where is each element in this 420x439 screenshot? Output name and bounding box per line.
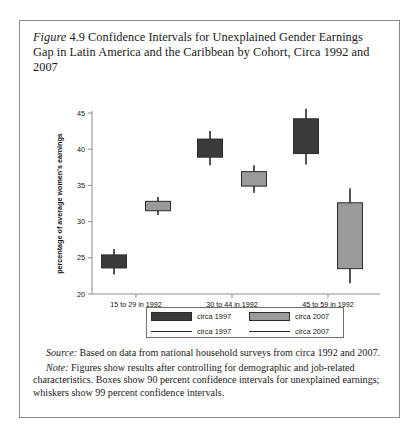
boxplot-series-group bbox=[102, 109, 363, 283]
source-note: Source: Based on data from national hous… bbox=[33, 347, 389, 360]
figure-frame: Figure 4.9 Confidence Intervals for Unex… bbox=[19, 20, 400, 418]
y-tick-label: 35 bbox=[77, 181, 85, 190]
y-axis-title: percentage of average women's earnings bbox=[55, 133, 64, 274]
figure-notes: Source: Based on data from national hous… bbox=[33, 347, 389, 399]
boxplot-svg: 202530354045percentage of average women'… bbox=[20, 76, 401, 316]
note-label: Note: bbox=[46, 362, 68, 373]
legend-item-line-2007: circa 2007 bbox=[245, 324, 343, 338]
boxplot-item bbox=[294, 109, 319, 165]
boxplot-item bbox=[198, 131, 223, 165]
boxplot-item bbox=[242, 165, 267, 193]
chart-plot-area: 202530354045percentage of average women'… bbox=[20, 76, 401, 316]
y-tick-label: 20 bbox=[77, 290, 85, 299]
boxplot-item bbox=[102, 249, 127, 274]
legend-swatch-box-1997-icon bbox=[151, 312, 192, 321]
y-tick-label: 30 bbox=[77, 217, 85, 226]
legend-swatch-box-2007-icon bbox=[249, 312, 290, 321]
legend-swatch-line-2007-icon bbox=[249, 331, 290, 332]
legend-label-box-1997: circa 1997 bbox=[197, 312, 231, 321]
source-text: Based on data from national household su… bbox=[77, 347, 380, 358]
legend-row-boxes: circa 1997 circa 2007 bbox=[147, 309, 343, 323]
y-tick-label: 25 bbox=[77, 253, 85, 262]
boxplot-item bbox=[146, 197, 171, 215]
note-text: Figures show results after controlling f… bbox=[33, 362, 379, 398]
legend-item-line-1997: circa 1997 bbox=[147, 324, 245, 338]
figure-number: 4.9 bbox=[69, 30, 85, 44]
legend-label-line-1997: circa 1997 bbox=[197, 327, 231, 336]
legend-row-lines: circa 1997 circa 2007 bbox=[147, 324, 343, 338]
legend-label-line-2007: circa 2007 bbox=[295, 327, 329, 336]
figure-label: Figure bbox=[33, 30, 66, 44]
legend-swatch-line-1997-icon bbox=[151, 331, 192, 332]
legend-label-box-2007: circa 2007 bbox=[295, 312, 329, 321]
figure-caption: Figure 4.9 Confidence Intervals for Unex… bbox=[33, 30, 383, 76]
chart-legend: circa 1997 circa 2007 circa 1997 circa 2… bbox=[146, 307, 344, 338]
legend-item-box-2007: circa 2007 bbox=[245, 309, 343, 323]
boxplot-item bbox=[338, 188, 363, 283]
y-tick-label: 40 bbox=[77, 145, 85, 154]
y-tick-label: 45 bbox=[77, 109, 85, 118]
source-label: Source: bbox=[46, 347, 77, 358]
explanatory-note: Note: Figures show results after control… bbox=[33, 362, 389, 400]
legend-item-box-1997: circa 1997 bbox=[147, 309, 245, 323]
